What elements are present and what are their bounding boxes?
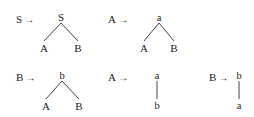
rule-4-arrow: → bbox=[116, 72, 128, 83]
rule-1-lhs: S→ bbox=[16, 14, 35, 25]
rule-1-child-node-2: B bbox=[71, 43, 85, 54]
rule-2-lhs: A→ bbox=[108, 14, 128, 25]
rule-1-root-node: S bbox=[54, 12, 68, 23]
rule-4-child-node-1: b bbox=[150, 101, 164, 112]
rule-2-arrow: → bbox=[116, 14, 128, 25]
rule-4-lhs-symbol: A bbox=[108, 71, 116, 83]
rule-4-root-node: a bbox=[150, 71, 164, 82]
rule-5-arrow: → bbox=[217, 72, 229, 83]
rule-3-lhs-symbol: B bbox=[16, 71, 24, 83]
rule-5-lhs: B→ bbox=[209, 72, 229, 83]
rule-4-lhs: A→ bbox=[108, 72, 128, 83]
rule-3-arrow: → bbox=[24, 72, 36, 83]
rule-2-edge-left bbox=[144, 23, 159, 41]
rule-5-lhs-symbol: B bbox=[209, 71, 217, 83]
rule-1-edge-left bbox=[44, 23, 61, 41]
rule-3-child-node-1: A bbox=[39, 101, 53, 112]
rule-3-edge-right bbox=[62, 81, 79, 99]
rule-1-edge-right bbox=[61, 23, 78, 41]
rule-2-root-node: a bbox=[152, 13, 166, 24]
rule-3-lhs: B→ bbox=[16, 72, 36, 83]
rule-3-root-node: b bbox=[55, 71, 69, 82]
rule-5-child-node-1: a bbox=[232, 101, 246, 112]
rule-2-child-node-1: A bbox=[137, 43, 151, 54]
rule-2-edge-right bbox=[159, 23, 174, 41]
production-rules-diagram: S→ S A B A→ a A B B→ b A B bbox=[0, 0, 254, 117]
rule-2-child-node-2: B bbox=[167, 43, 181, 54]
rule-5-root-node: b bbox=[232, 71, 246, 82]
rule-3-child-node-2: B bbox=[72, 101, 86, 112]
rule-1-child-node-1: A bbox=[37, 43, 51, 54]
rule-2-lhs-symbol: A bbox=[108, 13, 116, 25]
rule-3-edge-left bbox=[46, 81, 62, 99]
rule-1-arrow: → bbox=[22, 14, 34, 25]
